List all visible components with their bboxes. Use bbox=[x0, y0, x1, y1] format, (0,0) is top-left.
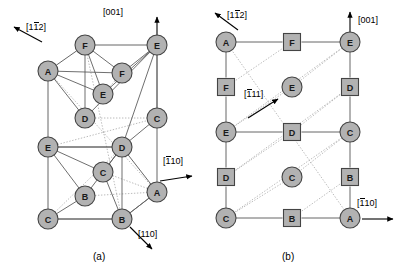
atom-node-d: D bbox=[218, 169, 235, 186]
atom-label: A bbox=[154, 188, 161, 198]
slip-plane-edge bbox=[57, 151, 94, 168]
atom-node-e: E bbox=[38, 137, 58, 157]
atom-label: A bbox=[347, 214, 354, 224]
slip-plane-edge bbox=[130, 51, 149, 67]
atom-node-e: E bbox=[216, 122, 236, 142]
atom-node-c: C bbox=[216, 208, 236, 228]
atom-label: A bbox=[45, 67, 52, 77]
direction-arrows-layer bbox=[14, 12, 393, 249]
atom-label: C bbox=[289, 173, 296, 183]
atom-label: C bbox=[154, 114, 161, 124]
atom-label: B bbox=[289, 214, 296, 224]
atom-label: B bbox=[82, 192, 89, 202]
atom-node-c: C bbox=[147, 108, 167, 128]
panel-caption-b: (b) bbox=[282, 251, 294, 262]
hidden-edge bbox=[58, 121, 148, 145]
atom-node-a: A bbox=[147, 182, 167, 202]
cell-edge bbox=[56, 51, 77, 66]
slip-plane-edge bbox=[93, 51, 114, 67]
direction-arrow bbox=[248, 99, 278, 118]
direction-label: [110] bbox=[163, 156, 183, 166]
atom-label: D bbox=[347, 83, 354, 93]
stacking-trace-edge bbox=[234, 182, 283, 212]
slip-plane-edge bbox=[54, 155, 79, 188]
atom-node-d: D bbox=[284, 124, 301, 141]
atom-node-e: E bbox=[340, 32, 360, 52]
atom-node-e: E bbox=[282, 77, 302, 97]
atom-label: E bbox=[100, 90, 106, 100]
atom-label: B bbox=[119, 215, 126, 225]
atom-label: D bbox=[289, 128, 296, 138]
diagram-canvas: FEAFEDCEDCBACBAFEFEDEDCDCBCBA bbox=[0, 0, 400, 277]
stacking-trace-edge bbox=[300, 138, 342, 171]
stacking-trace-edge bbox=[234, 137, 284, 171]
atom-node-f: F bbox=[75, 35, 95, 55]
direction-arrow bbox=[160, 176, 192, 181]
atom-node-c: C bbox=[93, 162, 113, 182]
atom-node-d: D bbox=[75, 108, 95, 128]
atom-node-c: C bbox=[282, 167, 302, 187]
atom-label: E bbox=[45, 143, 51, 153]
crystal-stacking-figure: FEAFEDCEDCBACBAFEFEDEDCDCBCBA [112][001]… bbox=[0, 0, 400, 277]
atom-label: F bbox=[289, 38, 295, 48]
atom-label: E bbox=[347, 38, 353, 48]
atom-node-c: C bbox=[38, 209, 58, 229]
atom-label: D bbox=[82, 114, 89, 124]
cell-edge bbox=[130, 198, 149, 213]
atom-label: C bbox=[45, 215, 52, 225]
atom-label: E bbox=[289, 83, 295, 93]
slip-plane-edge bbox=[54, 79, 79, 110]
direction-label: [112] bbox=[26, 22, 46, 32]
hidden-edge bbox=[95, 193, 147, 196]
atom-node-b: B bbox=[75, 186, 95, 206]
atom-node-c: C bbox=[340, 122, 360, 142]
direction-label: [001] bbox=[358, 16, 378, 25]
atom-label: C bbox=[100, 168, 107, 178]
atom-node-b: B bbox=[112, 209, 132, 229]
atom-label: A bbox=[223, 38, 230, 48]
atom-label: F bbox=[119, 69, 125, 79]
atom-node-b: B bbox=[284, 210, 301, 227]
direction-label: [110] bbox=[138, 230, 157, 239]
atom-label: F bbox=[82, 41, 88, 51]
atom-node-a: A bbox=[216, 32, 236, 52]
direction-label: [110] bbox=[357, 198, 377, 208]
atom-node-a: A bbox=[38, 61, 58, 81]
atom-label: C bbox=[223, 214, 230, 224]
atom-label: C bbox=[347, 128, 354, 138]
atom-node-d: D bbox=[342, 79, 359, 96]
atom-label: D bbox=[223, 173, 230, 183]
direction-label: [111] bbox=[244, 89, 263, 99]
panel-caption-a: (a) bbox=[93, 251, 105, 262]
slip-plane-edge bbox=[130, 124, 150, 140]
atom-label: D bbox=[119, 143, 126, 153]
slip-plane-edge bbox=[107, 181, 119, 209]
atom-node-e: E bbox=[147, 35, 167, 55]
atom-node-e: E bbox=[93, 84, 113, 104]
atom-label: F bbox=[223, 83, 229, 93]
stacking-trace-edge bbox=[300, 48, 342, 81]
atom-label: B bbox=[347, 173, 354, 183]
atom-node-f: F bbox=[218, 79, 235, 96]
atom-node-b: B bbox=[342, 169, 359, 186]
stacking-trace-edge bbox=[300, 182, 342, 212]
atom-node-a: A bbox=[340, 208, 360, 228]
atom-nodes-layer: FEAFEDCEDCBACBAFEFEDEDCDCBCBA bbox=[38, 32, 360, 229]
direction-label: [112] bbox=[227, 10, 247, 20]
atom-label: E bbox=[154, 41, 160, 51]
direction-label: [001] bbox=[103, 8, 123, 17]
stacking-trace-edge bbox=[300, 93, 343, 126]
cell-edge bbox=[128, 155, 151, 184]
atom-node-d: D bbox=[112, 137, 132, 157]
atom-node-f: F bbox=[112, 63, 132, 83]
atom-label: E bbox=[223, 128, 229, 138]
hidden-edge bbox=[112, 175, 147, 188]
atom-node-f: F bbox=[284, 34, 301, 51]
